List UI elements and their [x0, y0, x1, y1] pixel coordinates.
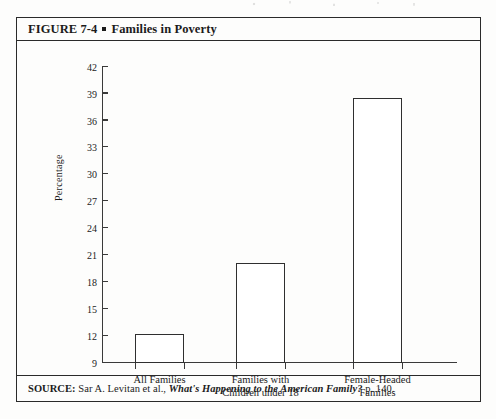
y-tick-mark	[102, 146, 108, 147]
figure-footer: SOURCE: Sar A. Levitan et al., What's Ha…	[17, 375, 480, 401]
square-bullet-icon	[102, 27, 106, 31]
x-tick	[353, 363, 354, 369]
y-tick-mark	[102, 254, 108, 255]
y-tick-label: 12	[87, 331, 97, 342]
x-tick	[236, 363, 237, 369]
figure-number: FIGURE 7-4	[28, 22, 97, 36]
y-tick: 33	[102, 146, 108, 147]
source-note: SOURCE: Sar A. Levitan et al., What's Ha…	[28, 383, 394, 394]
y-tick-label: 15	[87, 304, 97, 315]
plot-area: Percentage 91215182124273033363942 All F…	[17, 41, 480, 377]
y-tick-mark	[102, 92, 108, 93]
y-tick: 24	[102, 227, 108, 228]
y-tick-mark	[102, 362, 108, 363]
source-author: Sar A. Levitan et al.,	[78, 383, 166, 394]
bar	[236, 263, 285, 363]
figure-screenshot: FIGURE 7-4Families in Poverty Percentage…	[0, 0, 496, 419]
y-tick-mark	[102, 66, 108, 67]
source-page: p. 140.	[365, 383, 394, 394]
x-tick	[402, 363, 403, 369]
x-tick	[184, 363, 185, 369]
figure-header: FIGURE 7-4Families in Poverty	[17, 18, 480, 41]
y-tick-label: 33	[87, 142, 97, 153]
y-tick: 30	[102, 173, 108, 174]
figure-box: FIGURE 7-4Families in Poverty Percentage…	[16, 17, 481, 402]
y-tick: 9	[102, 362, 108, 363]
y-axis-line	[102, 66, 103, 363]
y-tick-mark	[102, 335, 108, 336]
y-tick-label: 36	[87, 116, 97, 127]
y-tick: 15	[102, 308, 108, 309]
y-tick-mark	[102, 227, 108, 228]
x-tick	[285, 363, 286, 369]
y-tick-label: 18	[87, 277, 97, 288]
y-tick: 12	[102, 335, 108, 336]
y-tick: 21	[102, 254, 108, 255]
source-work-title: What's Happening to the American Family?	[169, 383, 363, 394]
y-tick-label: 21	[87, 250, 97, 261]
figure-title: FIGURE 7-4Families in Poverty	[28, 22, 217, 37]
bar	[353, 98, 402, 363]
y-tick-mark	[102, 173, 108, 174]
y-tick: 36	[102, 119, 108, 120]
y-tick-label: 42	[87, 62, 97, 73]
y-tick-mark	[102, 281, 108, 282]
y-tick: 39	[102, 92, 108, 93]
y-tick-label: 24	[87, 223, 97, 234]
y-tick-label: 39	[87, 89, 97, 100]
y-tick-label: 9	[92, 358, 97, 369]
y-tick: 27	[102, 200, 108, 201]
figure-title-text: Families in Poverty	[111, 22, 216, 36]
source-label: SOURCE:	[28, 383, 76, 394]
y-tick-label: 27	[87, 196, 97, 207]
y-tick: 18	[102, 281, 108, 282]
scan-artifact	[230, 0, 430, 8]
bar	[135, 334, 184, 363]
x-tick	[135, 363, 136, 369]
y-tick-mark	[102, 119, 108, 120]
y-tick-label: 30	[87, 169, 97, 180]
y-axis-title: Percentage	[53, 154, 64, 201]
y-tick-mark	[102, 200, 108, 201]
y-tick-mark	[102, 308, 108, 309]
y-tick: 42	[102, 66, 108, 67]
